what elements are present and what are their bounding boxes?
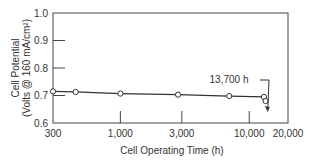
data-point [227, 93, 232, 98]
x-tick-label: 1,000 [108, 128, 133, 139]
data-point [118, 91, 123, 96]
y-axis-title-line2: (Volts @ 160 mA/cm²) [21, 19, 32, 117]
x-tick-label: 300 [45, 128, 62, 139]
y-tick-label: 0.7 [34, 90, 48, 101]
data-point [50, 89, 55, 94]
chart: 0.60.70.80.91.0 3001,0003,00010,00020,00… [0, 0, 315, 160]
y-tick-label: 0.9 [34, 35, 48, 46]
data-point [175, 92, 180, 97]
y-axis-title-line1: Cell Potential [10, 39, 21, 98]
x-tick-label: 20,000 [273, 128, 304, 139]
annotation: 13,700 h [210, 74, 270, 112]
y-axis-ticks: 0.60.70.80.91.0 [34, 8, 65, 129]
x-axis-title: Cell Operating Time (h) [120, 145, 223, 156]
y-tick-label: 1.0 [34, 8, 48, 19]
y-tick-label: 0.8 [34, 63, 48, 74]
x-tick-label: 10,000 [234, 128, 265, 139]
x-tick-label: 3,000 [169, 128, 194, 139]
data-point [73, 89, 78, 94]
annotation-label: 13,700 h [210, 74, 249, 85]
data-series [50, 89, 268, 104]
x-axis-ticks: 3001,0003,00010,00020,000 [45, 111, 304, 139]
plot-frame [53, 13, 288, 123]
y-tick-label: 0.6 [34, 118, 48, 129]
data-point [263, 98, 268, 103]
